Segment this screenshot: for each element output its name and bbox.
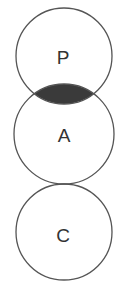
label-c: C bbox=[56, 225, 70, 246]
label-a: A bbox=[58, 125, 71, 146]
venn-diagram: P A C bbox=[0, 0, 132, 303]
label-p: P bbox=[57, 47, 70, 68]
